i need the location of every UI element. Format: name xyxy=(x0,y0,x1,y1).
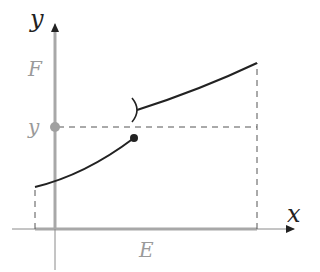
codomain-label: F xyxy=(27,57,43,81)
value-label: y xyxy=(27,115,40,139)
curve-lower-branch xyxy=(35,138,134,187)
value-point xyxy=(50,122,60,132)
curve-upper-branch xyxy=(137,63,257,110)
y-axis-label: y xyxy=(29,5,44,33)
closed-dot-marker xyxy=(130,134,138,142)
function-diagram: y x F y E xyxy=(0,0,320,272)
open-bracket-marker xyxy=(132,98,137,122)
x-axis-label: x xyxy=(287,200,301,228)
domain-label: E xyxy=(138,238,154,262)
